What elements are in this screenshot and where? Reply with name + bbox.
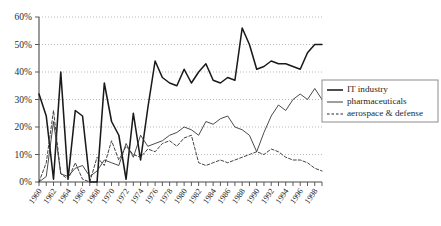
chart-container: 0%10%20%30%40%50%60% 1960196219641966196…: [0, 0, 441, 226]
legend: IT industrypharmaceuticalsaerospace & de…: [322, 80, 438, 122]
x-tick-label: 1974: [129, 187, 146, 206]
x-tick-label: 1994: [274, 187, 291, 206]
y-tick-label: 30%: [15, 95, 33, 105]
y-tick-label: 60%: [15, 12, 33, 22]
series-line-aerospace-defense: [39, 111, 322, 183]
x-tick-label: 1976: [143, 187, 160, 206]
x-axis-group: [39, 182, 322, 186]
x-tick-label: 1970: [100, 187, 117, 206]
x-tick-label: 1984: [201, 187, 218, 206]
y-axis-group: [35, 17, 39, 182]
x-tick-label: 1986: [216, 187, 233, 206]
y-tick-labels-group: 0%10%20%30%40%50%60%: [15, 12, 33, 187]
y-tick-label: 50%: [15, 40, 33, 50]
series-line-pharmaceuticals: [39, 89, 322, 183]
legend-label: IT industry: [347, 84, 388, 94]
x-tick-label: 1982: [187, 187, 204, 206]
x-tick-label: 1960: [27, 187, 44, 206]
x-tick-label: 1996: [288, 187, 305, 206]
y-tick-label: 10%: [15, 150, 33, 160]
x-tick-label: 1964: [56, 187, 73, 206]
legend-label: aerospace & defense: [347, 108, 423, 118]
x-tick-label: 1978: [158, 187, 175, 206]
x-tick-label: 1992: [259, 187, 276, 206]
y-tick-label: 0%: [19, 177, 32, 187]
x-tick-label: 1972: [114, 187, 131, 206]
x-tick-label: 1988: [230, 187, 247, 206]
x-tick-label: 1968: [85, 187, 102, 206]
series-line-it-industry: [39, 28, 322, 182]
line-chart: 0%10%20%30%40%50%60% 1960196219641966196…: [0, 0, 441, 226]
y-tick-label: 20%: [15, 122, 33, 132]
y-tick-label: 40%: [15, 67, 33, 77]
gridlines-group: [39, 17, 322, 155]
x-tick-label: 1966: [71, 187, 88, 206]
legend-label: pharmaceuticals: [347, 96, 407, 106]
x-tick-labels-group: 1960196219641966196819701972197419761978…: [27, 187, 320, 206]
series-group: [39, 28, 322, 182]
x-tick-label: 1962: [42, 187, 59, 206]
x-tick-label: 1990: [245, 187, 262, 206]
x-tick-label: 1980: [172, 187, 189, 206]
x-tick-label: 1998: [303, 187, 320, 206]
